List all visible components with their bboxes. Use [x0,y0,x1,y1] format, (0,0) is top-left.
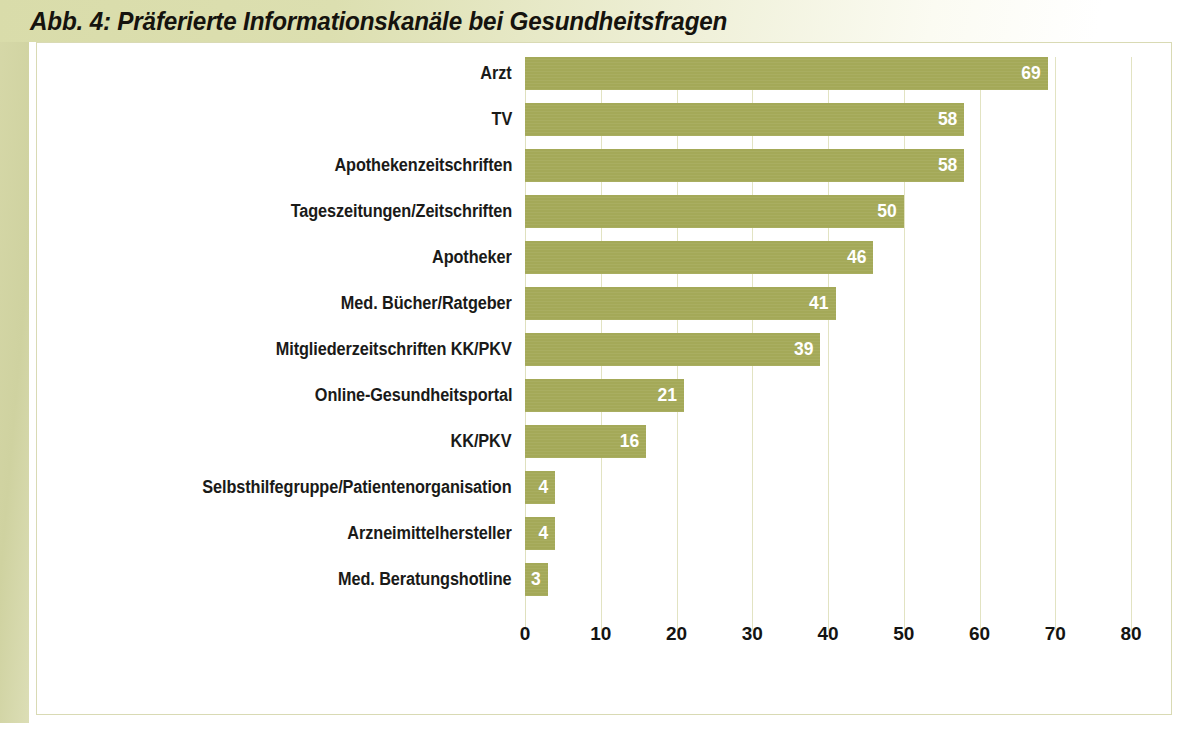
category-label: Arzneimittelhersteller [348,517,512,550]
bar-value-label: 3 [531,563,541,596]
bar-value-label: 39 [794,333,813,366]
bar-wrapper: 4 [525,517,555,550]
bar-value-label: 58 [938,103,957,136]
x-tick-label: 0 [505,623,545,645]
category-label: Med. Bücher/Ratgeber [341,287,512,320]
category-label: TV [491,103,512,136]
category-label: Apothekenzeitschriften [334,149,512,182]
bar[interactable]: 58 [525,149,964,182]
category-label: Apotheker [432,241,512,274]
x-tick-label: 50 [884,623,924,645]
bar-row: Tageszeitungen/Zeitschriften50 [37,195,1173,241]
bar-row: Apothekenzeitschriften58 [37,149,1173,195]
category-label: KK/PKV [451,425,512,458]
category-label: Arzt [481,57,512,90]
decorative-left-frame [0,0,29,723]
x-tick-label: 80 [1111,623,1151,645]
bar-value-label: 46 [847,241,866,274]
plot-area: Arzt69TV58Apothekenzeitschriften58Tagesz… [37,43,1173,716]
bar[interactable]: 69 [525,57,1048,90]
category-label: Mitgliederzeitschriften KK/PKV [276,333,512,366]
bar[interactable]: 46 [525,241,873,274]
bar[interactable]: 16 [525,425,646,458]
bar-row: Online-Gesundheitsportal21 [37,379,1173,425]
bar-wrapper: 41 [525,287,836,320]
bar-value-label: 41 [809,287,828,320]
bar-rows: Arzt69TV58Apothekenzeitschriften58Tagesz… [37,57,1173,609]
x-axis: 01020304050607080 [37,623,1173,653]
bar[interactable]: 58 [525,103,964,136]
bar-wrapper: 58 [525,103,964,136]
chart-panel: Arzt69TV58Apothekenzeitschriften58Tagesz… [36,42,1172,715]
bar-row: Med. Beratungshotline3 [37,563,1173,609]
bar[interactable]: 3 [525,563,548,596]
bar[interactable]: 41 [525,287,836,320]
figure-title: Abb. 4: Präferierte Informationskanäle b… [30,4,727,38]
bar-row: Med. Bücher/Ratgeber41 [37,287,1173,333]
category-label: Tageszeitungen/Zeitschriften [291,195,512,228]
bar-wrapper: 16 [525,425,646,458]
category-label: Selbsthilfegruppe/Patientenorganisation [203,471,512,504]
bar-wrapper: 46 [525,241,873,274]
bar-wrapper: 21 [525,379,684,412]
bar-row: Mitgliederzeitschriften KK/PKV39 [37,333,1173,379]
bar-value-label: 50 [877,195,896,228]
bar-value-label: 4 [539,471,549,504]
bar-wrapper: 4 [525,471,555,504]
bar-wrapper: 3 [525,563,548,596]
x-tick-label: 10 [581,623,621,645]
x-tick-label: 40 [808,623,848,645]
bar-value-label: 21 [658,379,677,412]
bar[interactable]: 39 [525,333,820,366]
bar-row: Apotheker46 [37,241,1173,287]
bar-row: KK/PKV16 [37,425,1173,471]
x-tick-label: 70 [1035,623,1075,645]
bar-value-label: 16 [620,425,639,458]
bar-wrapper: 69 [525,57,1048,90]
bar-value-label: 69 [1021,57,1040,90]
bar-row: Arzt69 [37,57,1173,103]
x-tick-label: 20 [657,623,697,645]
category-label: Online-Gesundheitsportal [314,379,512,412]
bar[interactable]: 21 [525,379,684,412]
bar-row: TV58 [37,103,1173,149]
bar[interactable]: 4 [525,517,555,550]
x-tick-label: 60 [960,623,1000,645]
bar-wrapper: 58 [525,149,964,182]
figure-container: Abb. 4: Präferierte Informationskanäle b… [0,0,1192,735]
bar-wrapper: 39 [525,333,820,366]
bar[interactable]: 4 [525,471,555,504]
bar-row: Arzneimittelhersteller4 [37,517,1173,563]
bar-wrapper: 50 [525,195,904,228]
x-tick-label: 30 [732,623,772,645]
category-label: Med. Beratungshotline [339,563,512,596]
bar-value-label: 58 [938,149,957,182]
bar[interactable]: 50 [525,195,904,228]
bar-row: Selbsthilfegruppe/Patientenorganisation4 [37,471,1173,517]
bar-value-label: 4 [539,517,549,550]
